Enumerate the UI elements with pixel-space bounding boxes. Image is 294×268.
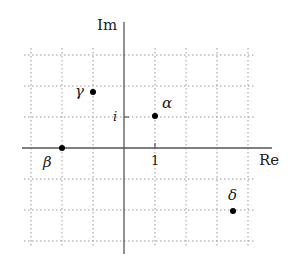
- point-beta-label: β: [42, 153, 52, 171]
- point-delta-label: δ: [228, 186, 237, 204]
- imaginary-axis-label: Im: [97, 16, 117, 34]
- imag-tick-label: i: [113, 109, 117, 124]
- real-tick-label: 1: [151, 153, 159, 168]
- point-gamma-label: γ: [75, 82, 84, 100]
- real-axis-label: Re: [259, 151, 279, 169]
- point-alpha-label: α: [162, 94, 172, 112]
- complex-plane-diagram: Im Re 1 i α β γ δ: [0, 0, 294, 268]
- point-alpha: α: [152, 94, 172, 119]
- point-beta: β: [42, 145, 65, 171]
